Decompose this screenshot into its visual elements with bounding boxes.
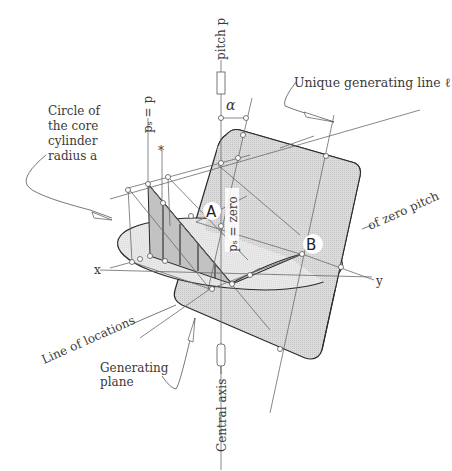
label-asterisk: * — [158, 144, 164, 158]
line-of-locations-leader — [132, 305, 176, 324]
cylindroid-diagram: pitch p α Unique generating line ℓ Circl… — [0, 0, 452, 471]
label-ps-equals-p: pₛ = p — [141, 96, 155, 133]
label-generating-plane-2: plane — [100, 375, 134, 389]
label-line-of-locations: Line of locations — [40, 313, 138, 367]
label-circle-core-3: cylinder — [48, 134, 98, 148]
pitch-marker-box — [217, 72, 225, 94]
label-circle-core-1: Circle of — [48, 104, 101, 118]
label-x-axis: x — [94, 263, 101, 277]
x-axis-stub — [110, 262, 132, 268]
label-unique-generating-line: Unique generating line ℓ — [294, 75, 451, 90]
label-point-b: B — [306, 236, 316, 254]
label-of-zero-pitch: of zero pitch — [366, 189, 442, 233]
label-generating-plane-1: Generating — [100, 361, 169, 375]
unique-line-arrow — [304, 112, 334, 122]
label-pitch-p: pitch p — [214, 17, 228, 60]
circle-core-leader — [26, 155, 112, 218]
label-circle-core-4: radius a — [48, 149, 97, 163]
generating-plane-arrow — [188, 318, 195, 342]
label-y-axis: y — [375, 274, 383, 288]
label-circle-core-2: the core — [48, 119, 98, 133]
label-point-a: A — [206, 203, 217, 221]
generating-plane-leader — [162, 318, 195, 389]
circle-core-arrow — [92, 212, 112, 220]
label-alpha: α — [226, 97, 236, 113]
label-ps-equals-zero: pₛ = zero — [226, 196, 240, 252]
label-central-axis: Central axis — [215, 379, 229, 452]
central-axis-marker-box — [217, 344, 225, 366]
